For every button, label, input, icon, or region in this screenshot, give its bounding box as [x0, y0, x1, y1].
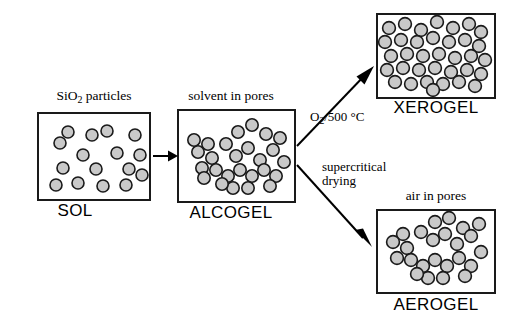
xerogel-particle — [461, 64, 474, 77]
alcogel-bottom-label: ALCOGEL — [189, 204, 272, 222]
sol-caption-formula: SiO — [56, 88, 77, 103]
sol-particle — [50, 179, 62, 191]
sol-particle — [90, 163, 102, 175]
alcogel-top-caption: solvent in pores — [188, 89, 274, 104]
alcogel-particle — [246, 119, 258, 131]
sol-particle — [62, 126, 74, 138]
xerogel-particle — [399, 18, 412, 31]
xerogel-particle — [401, 48, 414, 61]
sol-particle — [97, 180, 109, 192]
alcogel-particle — [210, 164, 222, 176]
xerogel-particle — [479, 54, 492, 67]
aerogel-particle — [475, 246, 488, 259]
aerogel-particle — [465, 230, 478, 243]
aerogel-top-caption: air in pores — [406, 189, 467, 204]
gelation-arrow — [153, 151, 178, 162]
xerogel-particle — [427, 32, 440, 45]
xerogel-particle — [417, 50, 430, 63]
upper-branch-arrow — [297, 66, 374, 146]
aerogel-particle — [441, 260, 454, 273]
lower-branch-label-line2: drying — [322, 174, 386, 188]
sol-gel-process-diagram: SiO2 particles SOL solvent in pores ALCO… — [0, 0, 511, 329]
sol-particle — [54, 137, 66, 149]
alcogel-particle — [274, 132, 286, 144]
lower-branch-label: supercritical drying — [322, 160, 386, 188]
alcogel-particle — [216, 178, 228, 190]
xerogel-particle — [465, 50, 478, 63]
alcogel-particle — [198, 172, 210, 184]
aerogel-particle — [443, 212, 456, 225]
sol-particle — [111, 147, 123, 159]
alcogel-particle — [267, 144, 279, 156]
xerogel-particle — [395, 34, 408, 47]
aerogel-particle — [429, 216, 442, 229]
sol-particle — [129, 129, 141, 141]
alcogel-particle — [260, 128, 272, 140]
xerogel-bottom-label: XEROGEL — [394, 99, 479, 117]
sol-particle — [72, 177, 84, 189]
xerogel-particle — [463, 18, 476, 31]
xerogel-particle — [469, 80, 482, 93]
upper-branch-label: O2/500 °C — [310, 110, 364, 126]
alcogel-particle — [278, 156, 290, 168]
xerogel-particle — [475, 68, 488, 81]
aerogel-particle — [387, 236, 400, 249]
xerogel-particle — [427, 84, 440, 97]
alcogel-particle — [232, 126, 244, 138]
xerogel-particle — [453, 76, 466, 89]
alcogel-particle — [242, 142, 254, 154]
sol-caption-rest: particles — [82, 88, 131, 103]
xerogel-particle — [381, 64, 394, 77]
xerogel-particle — [443, 36, 456, 49]
xerogel-particle — [397, 62, 410, 75]
xerogel-particle — [433, 48, 446, 61]
xerogel-particle — [413, 64, 426, 77]
sol-particle — [57, 162, 69, 174]
sol-bottom-label: SOL — [57, 202, 92, 220]
xerogel-particle — [415, 24, 428, 37]
alcogel-particle — [188, 134, 200, 146]
aerogel-particle — [415, 226, 428, 239]
aerogel-particle — [473, 218, 486, 231]
upper-branch-label-formula: O — [310, 109, 319, 124]
sol-particle — [136, 169, 148, 181]
xerogel-particle — [449, 52, 462, 65]
xerogel-particle — [379, 36, 392, 49]
xerogel-particle — [459, 34, 472, 47]
lower-branch-label-line1: supercritical — [322, 160, 386, 174]
sol-particle — [77, 149, 89, 161]
xerogel-particle — [385, 50, 398, 63]
alcogel-particle — [206, 152, 218, 164]
xerogel-particle — [411, 36, 424, 49]
xerogel-particle — [475, 26, 488, 39]
aerogel-particle — [459, 270, 472, 283]
alcogel-particle — [258, 164, 270, 176]
aerogel-particle — [405, 254, 418, 267]
xerogel-particle — [389, 76, 402, 89]
aerogel-particle — [451, 238, 464, 251]
aerogel-particle — [439, 228, 452, 241]
aerogel-particle — [429, 254, 442, 267]
aerogel-particle — [427, 234, 440, 247]
xerogel-particle — [431, 16, 444, 29]
xerogel-particle — [447, 22, 460, 35]
aerogel-particle — [391, 252, 404, 265]
alcogel-particle — [246, 170, 258, 182]
upper-branch-label-rest: /500 °C — [324, 109, 364, 124]
sol-particle — [101, 125, 113, 137]
alcogel-particle — [242, 182, 254, 194]
sol-particle — [120, 179, 132, 191]
xerogel-particle-group — [379, 16, 492, 97]
sol-particle — [134, 149, 146, 161]
sol-particle — [123, 163, 135, 175]
xerogel-particle — [405, 78, 418, 91]
alcogel-particle — [234, 164, 246, 176]
aerogel-particle — [401, 242, 414, 255]
alcogel-particle — [264, 180, 276, 192]
alcogel-particle — [220, 138, 232, 150]
xerogel-particle — [429, 62, 442, 75]
xerogel-particle — [383, 22, 396, 35]
aerogel-particle — [411, 268, 424, 281]
alcogel-particle — [230, 150, 242, 162]
diagram-graphics — [0, 0, 511, 329]
